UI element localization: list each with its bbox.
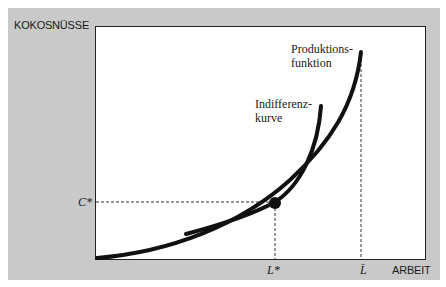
l-bar-label: L̄: [360, 263, 367, 278]
c-star-label: C*: [78, 195, 92, 210]
tangency-point: [269, 197, 281, 209]
production-label-line1: Produktions-: [291, 42, 353, 56]
indifference-label-line2: kurve: [255, 111, 312, 125]
l-star-label: L*: [267, 263, 280, 278]
indifference-label-line1: Indifferenz-: [255, 97, 312, 111]
production-function-label: Produktions- funktion: [291, 42, 353, 70]
indifference-curve-label: Indifferenz- kurve: [255, 97, 312, 125]
production-function-curve: [97, 52, 361, 258]
production-label-line2: funktion: [291, 56, 353, 70]
y-axis-label: KOKOSNÜSSE: [14, 19, 89, 31]
diagram-curves: [0, 0, 446, 287]
x-axis-label: ARBEIT: [392, 264, 431, 276]
